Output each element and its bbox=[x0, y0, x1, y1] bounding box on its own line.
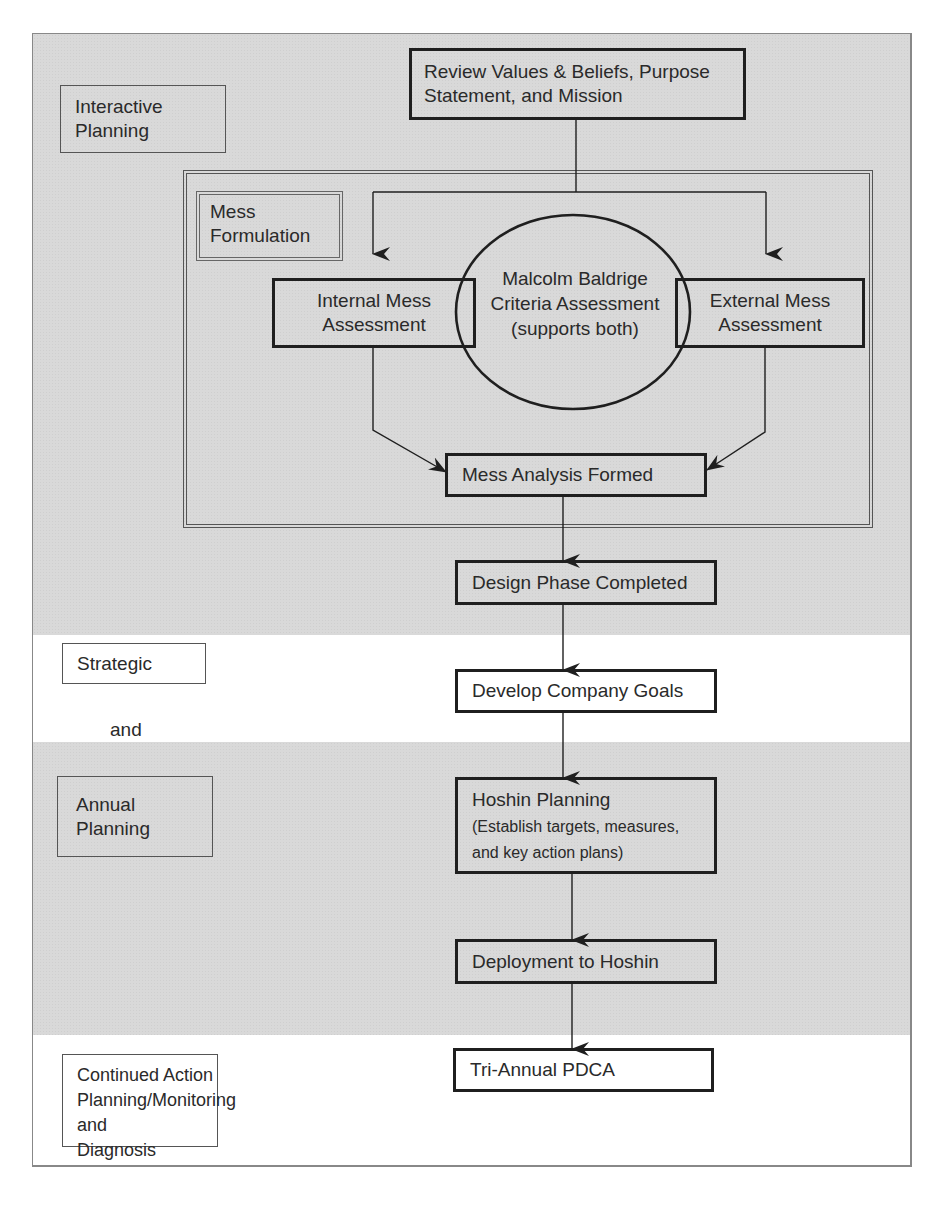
node-review-values: Review Values & Beliefs, Purpose Stateme… bbox=[409, 48, 746, 120]
arrow-external-to-analysis bbox=[707, 347, 765, 470]
node-company-goals: Develop Company Goals bbox=[455, 669, 717, 713]
hoshin-planning-title: Hoshin Planning bbox=[472, 786, 714, 814]
node-deployment: Deployment to Hoshin bbox=[455, 939, 717, 984]
node-malcolm-baldrige: Malcolm Baldrige Criteria Assessment (su… bbox=[480, 266, 670, 341]
connectors bbox=[0, 0, 938, 1226]
node-internal-mess: Internal Mess Assessment bbox=[272, 278, 476, 348]
hoshin-planning-detail: (Establish targets, measures, and key ac… bbox=[472, 814, 714, 866]
arrow-internal-to-analysis bbox=[373, 347, 446, 472]
node-external-mess: External Mess Assessment bbox=[675, 278, 865, 348]
node-design-phase: Design Phase Completed bbox=[455, 560, 717, 605]
node-mess-analysis: Mess Analysis Formed bbox=[445, 453, 707, 497]
node-hoshin-planning: Hoshin Planning (Establish targets, meas… bbox=[455, 777, 717, 874]
node-tri-annual-pdca: Tri-Annual PDCA bbox=[453, 1048, 714, 1092]
